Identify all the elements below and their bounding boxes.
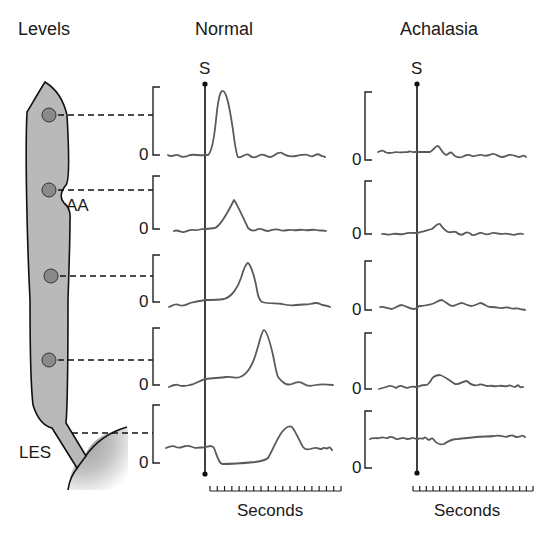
scale-bracket [153, 176, 160, 229]
trace-achalasia-1 [378, 146, 526, 157]
trace-achalasia-3 [380, 300, 525, 310]
swallow-dot [202, 81, 207, 86]
trace-normal-3 [169, 263, 330, 307]
scale-bracket [365, 92, 372, 160]
trace-achalasia-4 [379, 375, 523, 389]
sensor-dot [42, 108, 56, 122]
trace-normal-2 [174, 200, 326, 232]
scale-bracket [365, 333, 372, 389]
trace-normal-5 [166, 426, 332, 464]
swallow-dot [414, 470, 419, 475]
trace-normal-4 [169, 330, 333, 387]
scale-bracket [153, 255, 160, 302]
scale-bracket [153, 405, 160, 463]
sensor-dot [42, 183, 56, 197]
manometry-figure [0, 0, 550, 533]
sensor-dot [44, 269, 58, 283]
swallow-dot [202, 471, 207, 476]
trace-normal-1 [168, 91, 325, 157]
scale-bracket [365, 261, 372, 310]
sensor-dot [42, 353, 56, 367]
scale-bracket [365, 181, 372, 234]
swallow-dot [414, 81, 419, 86]
trace-achalasia-5 [370, 435, 525, 444]
scale-bracket [153, 328, 160, 385]
scale-bracket [153, 87, 160, 155]
trace-achalasia-2 [382, 224, 523, 235]
